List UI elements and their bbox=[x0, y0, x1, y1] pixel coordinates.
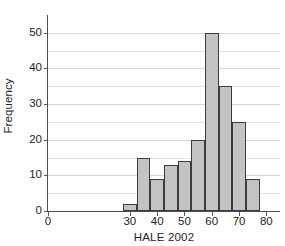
y-axis-tick-label: 10 bbox=[16, 170, 42, 182]
gridline-major bbox=[48, 33, 280, 34]
histogram-bar bbox=[246, 179, 260, 211]
y-axis-tick-labels: 01020304050 bbox=[12, 0, 42, 246]
y-axis-tick-label: 40 bbox=[16, 63, 42, 75]
gridline-major bbox=[48, 104, 280, 105]
histogram-bar bbox=[191, 140, 205, 211]
histogram-bar bbox=[123, 204, 137, 211]
histogram-bar bbox=[219, 86, 233, 211]
x-axis-tick-label: 0 bbox=[33, 216, 63, 228]
histogram-bar bbox=[164, 165, 178, 211]
histogram-bar bbox=[178, 161, 192, 211]
histogram-bar bbox=[232, 122, 246, 211]
histogram-figure: Frequency 01020304050 0304050607080 HALE… bbox=[0, 0, 285, 246]
y-axis-tick-label: 20 bbox=[16, 134, 42, 146]
x-axis-tick-label: 70 bbox=[224, 216, 254, 228]
y-axis-tick-label: 30 bbox=[16, 98, 42, 110]
gridline-minor bbox=[48, 86, 280, 87]
gridline-major bbox=[48, 68, 280, 69]
x-axis-tick-label: 60 bbox=[197, 216, 227, 228]
histogram-bar bbox=[150, 179, 164, 211]
histogram-bar bbox=[205, 33, 219, 211]
x-axis-tick-labels: 0304050607080 bbox=[48, 216, 280, 232]
histogram-bar bbox=[137, 158, 151, 211]
gridline-minor bbox=[48, 51, 280, 52]
x-axis-tick-label: 40 bbox=[142, 216, 172, 228]
x-axis-title: HALE 2002 bbox=[48, 231, 280, 243]
x-axis-tick-label: 30 bbox=[115, 216, 145, 228]
x-axis-tick-label: 50 bbox=[169, 216, 199, 228]
x-axis-tick-label: 80 bbox=[251, 216, 281, 228]
plot-area bbox=[48, 15, 280, 211]
y-axis-tick-label: 50 bbox=[16, 27, 42, 39]
